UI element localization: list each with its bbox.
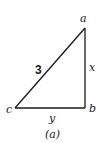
vertex-label-b: b [89, 102, 96, 115]
vertex-label-a: a [80, 12, 87, 25]
vertex-label-c: c [6, 103, 12, 116]
figure-caption: (a) [45, 128, 60, 141]
hypotenuse-side [15, 28, 85, 108]
triangle-diagram: a b c 3 x y (a) [0, 0, 102, 142]
horizontal-side-label: y [48, 112, 56, 125]
hypotenuse-label: 3 [35, 63, 42, 77]
vertical-side-label: x [89, 61, 96, 74]
